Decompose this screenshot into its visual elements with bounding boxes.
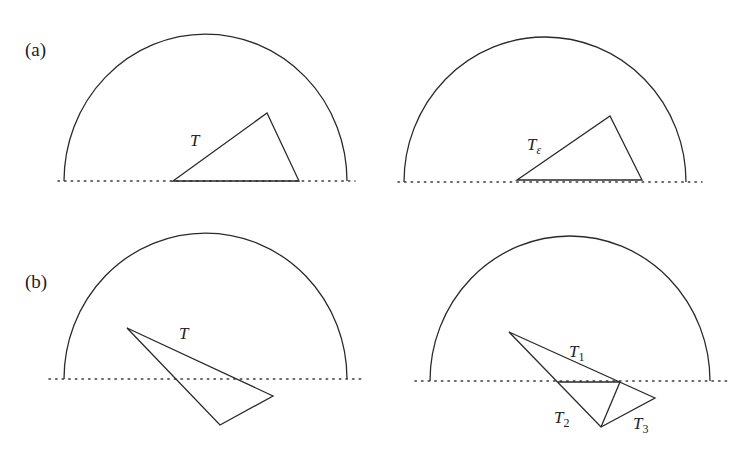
- label-T2: T2: [554, 408, 569, 430]
- panel-a-right: Tε: [398, 37, 702, 182]
- label-T: T: [179, 324, 190, 343]
- panel-b-right: T1 T2 T3: [415, 236, 728, 436]
- row-label-a: (a): [25, 39, 46, 61]
- semicircle: [64, 233, 347, 379]
- row-label-b: (b): [25, 271, 47, 293]
- label-T: T: [190, 131, 201, 150]
- label-T1: T1: [569, 342, 584, 364]
- triangle-semicircle-figure: (a) T Tε (b) T T1 T2 T3: [0, 0, 756, 455]
- cut-segment-diagonal: [601, 382, 620, 427]
- panel-b-left: T: [49, 233, 362, 425]
- label-T-epsilon: Tε: [527, 135, 541, 157]
- label-T3: T3: [633, 414, 648, 436]
- triangle-T-split: [509, 332, 655, 427]
- semicircle: [64, 34, 347, 181]
- triangle-T: [127, 328, 273, 425]
- panel-a-left: T: [58, 34, 355, 181]
